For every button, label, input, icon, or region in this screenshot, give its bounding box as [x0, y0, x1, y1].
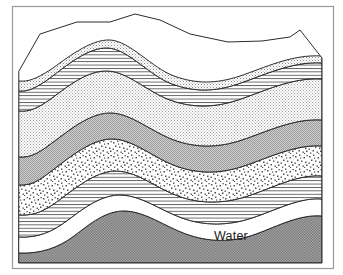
- block-body: [0, 0, 343, 275]
- water-label: Water: [214, 229, 248, 243]
- cross-section-svg: Water: [0, 0, 343, 275]
- geologic-block-diagram: Water: [0, 0, 343, 275]
